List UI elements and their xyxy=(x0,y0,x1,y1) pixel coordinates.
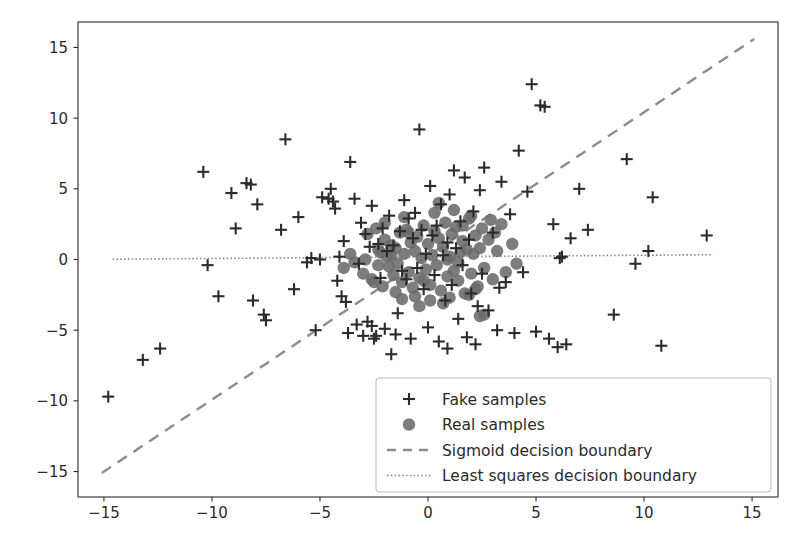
legend-circle-icon xyxy=(403,418,415,430)
legend-item-label: Sigmoid decision boundary xyxy=(442,442,652,460)
real-sample-point xyxy=(396,293,408,305)
real-sample-point xyxy=(376,280,388,292)
y-tick-label: 5 xyxy=(58,180,68,198)
x-tick-label: −15 xyxy=(88,504,120,522)
real-sample-point xyxy=(491,245,503,257)
real-sample-point xyxy=(424,294,436,306)
x-tick-label: 0 xyxy=(423,504,433,522)
legend-item-label: Fake samples xyxy=(442,391,546,409)
real-sample-point xyxy=(478,262,490,274)
y-tick-label: −15 xyxy=(36,463,68,481)
y-tick-label: 15 xyxy=(49,39,68,57)
real-sample-point xyxy=(420,263,432,275)
y-tick-label: −5 xyxy=(46,322,68,340)
real-sample-point xyxy=(338,262,350,274)
real-sample-point xyxy=(372,259,384,271)
real-sample-point xyxy=(506,238,518,250)
real-sample-point xyxy=(448,204,460,216)
legend-item-label: Real samples xyxy=(442,416,545,434)
y-tick-label: 10 xyxy=(49,110,68,128)
real-sample-point xyxy=(465,267,477,279)
figure-canvas: −15−10−5051015 −15−10−5051015 Fake sampl… xyxy=(0,0,797,555)
x-tick-label: −10 xyxy=(196,504,228,522)
x-tick-label: −5 xyxy=(309,504,331,522)
y-tick-label: 0 xyxy=(58,251,68,269)
real-sample-point xyxy=(474,310,486,322)
x-tick-label: 10 xyxy=(635,504,654,522)
real-sample-point xyxy=(430,259,442,271)
scatter-plot: −15−10−5051015 −15−10−5051015 Fake sampl… xyxy=(0,0,797,555)
real-sample-point xyxy=(439,217,451,229)
real-sample-point xyxy=(487,273,499,285)
real-sample-point xyxy=(510,258,522,270)
real-sample-point xyxy=(433,197,445,209)
y-tick-label: −10 xyxy=(36,392,68,410)
real-sample-point xyxy=(437,297,449,309)
chart-legend: Fake samplesReal samplesSigmoid decision… xyxy=(376,378,771,492)
legend-item-label: Least squares decision boundary xyxy=(442,467,697,485)
real-sample-point xyxy=(413,300,425,312)
x-tick-label: 5 xyxy=(531,504,541,522)
real-sample-point xyxy=(398,248,410,260)
real-sample-point xyxy=(344,248,356,260)
real-sample-point xyxy=(484,214,496,226)
x-tick-label: 15 xyxy=(743,504,762,522)
